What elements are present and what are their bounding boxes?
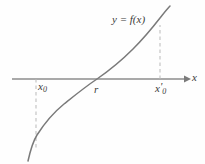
marker-label-x0-prime-subscript: 0 — [162, 87, 166, 96]
figure-canvas — [0, 0, 205, 164]
figure-container: y = f(x) x0 r x'0 x — [0, 0, 205, 164]
x-axis-label-text: x — [192, 71, 197, 83]
curve-label-text: y = f(x) — [112, 13, 145, 25]
marker-label-r: r — [94, 84, 98, 95]
curve-label: y = f(x) — [112, 14, 145, 25]
function-curve-path — [28, 6, 170, 161]
marker-label-x0: x0 — [38, 81, 47, 94]
marker-label-x0-prime: x'0 — [155, 81, 166, 96]
x-axis-arrow-icon — [184, 76, 191, 83]
marker-label-r-base: r — [94, 83, 98, 95]
x-axis-label: x — [192, 72, 197, 83]
marker-label-x0-subscript: 0 — [43, 85, 47, 94]
